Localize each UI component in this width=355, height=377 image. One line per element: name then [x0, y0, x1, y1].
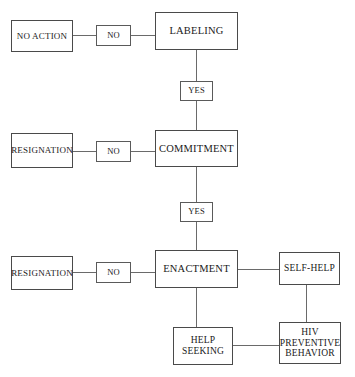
connector-no-2-to-commitment [131, 151, 155, 152]
edge-label-no-enactment[interactable]: NO [96, 262, 131, 283]
edge-label-yes-commitment-enactment-text: YES [188, 207, 205, 217]
connector-commitment-to-yes-2 [196, 167, 197, 202]
node-resignation-commitment[interactable]: RESIGNATION [11, 133, 73, 168]
node-resignation-enactment[interactable]: RESIGNATION [11, 256, 73, 290]
edge-label-no-commitment-text: NO [107, 147, 120, 157]
connector-self-help-to-hiv-preventive-behavior [306, 285, 307, 322]
connector-labeling-to-yes-1 [196, 50, 197, 81]
edge-label-no-labeling[interactable]: NO [96, 25, 131, 46]
edge-label-no-labeling-text: NO [107, 31, 120, 41]
node-help-seeking-label: HELP SEEKING [182, 335, 224, 356]
flowchart-canvas: NO ACTION NO LABELING YES RESIGNATION NO… [0, 0, 355, 377]
connector-resignation-2-to-no-3 [73, 272, 96, 273]
connector-help-seeking-to-hiv-preventive-behavior [233, 345, 279, 346]
node-enactment[interactable]: ENACTMENT [155, 250, 238, 288]
connector-yes-1-to-commitment [196, 101, 197, 130]
node-help-seeking[interactable]: HELP SEEKING [173, 327, 233, 365]
node-no-action-label: NO ACTION [17, 31, 68, 41]
node-enactment-label: ENACTMENT [163, 263, 230, 275]
node-self-help-label: SELF-HELP [284, 263, 335, 274]
node-resignation-enactment-label: RESIGNATION [11, 268, 73, 278]
node-hiv-preventive-behavior[interactable]: HIV PREVENTIVE BEHAVIOR [279, 322, 341, 364]
edge-label-no-enactment-text: NO [107, 268, 120, 278]
connector-no-1-to-labeling [131, 35, 155, 36]
edge-label-yes-commitment-enactment[interactable]: YES [180, 202, 213, 222]
connector-yes-2-to-enactment [196, 222, 197, 250]
node-commitment[interactable]: COMMITMENT [155, 130, 238, 167]
connector-no-action-to-no-1 [73, 35, 96, 36]
node-labeling-label: LABELING [169, 25, 223, 37]
edge-label-no-commitment[interactable]: NO [96, 141, 131, 162]
node-no-action[interactable]: NO ACTION [11, 20, 73, 52]
connector-enactment-to-help-seeking [196, 288, 197, 327]
node-hiv-preventive-behavior-label: HIV PREVENTIVE BEHAVIOR [280, 327, 341, 359]
connector-resignation-1-to-no-2 [73, 151, 96, 152]
node-resignation-commitment-label: RESIGNATION [11, 145, 73, 155]
connector-enactment-to-self-help [238, 269, 279, 270]
connector-no-3-to-enactment [131, 272, 155, 273]
node-commitment-label: COMMITMENT [159, 143, 234, 155]
edge-label-yes-labeling-commitment-text: YES [188, 86, 205, 96]
edge-label-yes-labeling-commitment[interactable]: YES [180, 81, 213, 101]
node-labeling[interactable]: LABELING [155, 12, 238, 50]
node-self-help[interactable]: SELF-HELP [279, 252, 340, 285]
